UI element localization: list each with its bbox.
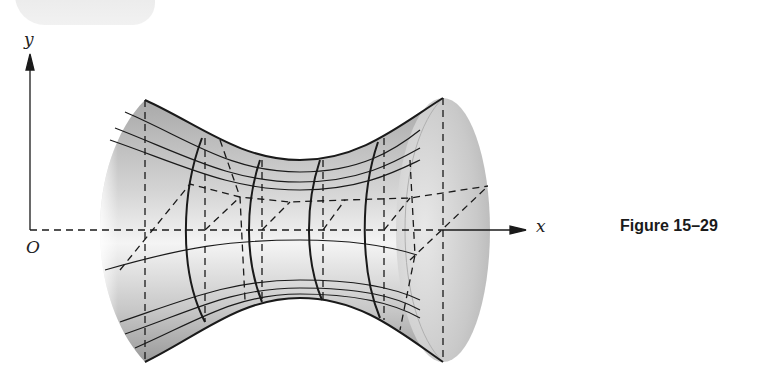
x-axis-label: x <box>536 216 546 236</box>
y-axis-label: y <box>24 29 34 49</box>
y-axis-arrow <box>26 54 34 70</box>
origin-label: O <box>26 237 40 257</box>
hyperboloid-figure <box>0 0 768 383</box>
x-axis-arrow <box>510 226 526 234</box>
figure-caption: Figure 15–29 <box>620 217 718 235</box>
